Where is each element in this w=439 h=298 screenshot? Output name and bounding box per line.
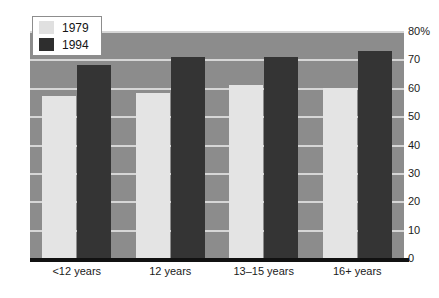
y-axis-tick-label: 50 <box>408 111 420 122</box>
bar-group <box>30 31 124 258</box>
x-axis-line <box>30 258 409 262</box>
legend-item: 1979 <box>39 21 89 34</box>
bar-group <box>217 31 311 258</box>
y-axis-tick-label: 30 <box>408 168 420 179</box>
y-axis-tick-label: 40 <box>408 140 420 151</box>
bar-1979-12-years <box>136 93 170 258</box>
bar-chart: 80%706050403020100 <12 years12 years13–1… <box>0 0 439 298</box>
bar-1994--12-years <box>77 65 111 258</box>
legend-item: 1994 <box>39 38 89 51</box>
bar-1979--12-years <box>42 96 76 258</box>
x-axis-tick-label: 12 years <box>124 266 218 288</box>
y-axis-tick-label: 60 <box>408 83 420 94</box>
x-axis-tick-label: <12 years <box>30 266 124 288</box>
chart-legend: 1979 1994 <box>32 16 102 56</box>
y-axis-tick-label: 70 <box>408 54 420 65</box>
bar-1994-12-years <box>171 57 205 258</box>
x-axis: <12 years12 years13–15 years16+ years <box>30 266 404 288</box>
bar-1994-16-years <box>358 51 392 258</box>
bar-group <box>124 31 218 258</box>
y-axis: 80%706050403020100 <box>408 0 439 298</box>
plot-area <box>30 31 404 258</box>
bar-1994-13-15-years <box>264 57 298 258</box>
legend-swatch-1994-icon <box>39 38 54 51</box>
y-axis-tick-label: 10 <box>408 225 420 236</box>
x-axis-tick-label: 16+ years <box>311 266 405 288</box>
bar-1979-16-years <box>323 88 357 258</box>
bar-group <box>311 31 405 258</box>
legend-swatch-1979-icon <box>39 21 54 34</box>
y-axis-tick-label: 0 <box>408 253 414 264</box>
legend-label-1979: 1979 <box>62 22 89 34</box>
legend-label-1994: 1994 <box>62 39 89 51</box>
x-axis-tick-label: 13–15 years <box>217 266 311 288</box>
bar-1979-13-15-years <box>229 85 263 258</box>
y-axis-tick-label: 20 <box>408 196 420 207</box>
y-axis-tick-label: 80% <box>408 26 430 37</box>
